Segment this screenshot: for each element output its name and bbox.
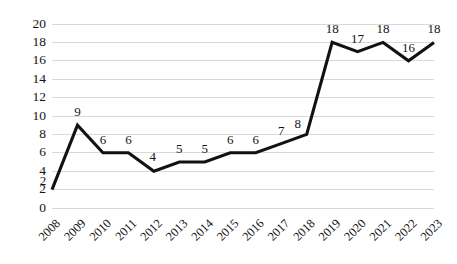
data-point-label: 9 <box>74 104 81 119</box>
data-point-label: 6 <box>125 132 132 147</box>
x-axis-tick-label: 2013 <box>163 216 190 243</box>
x-axis-tick-label: 2014 <box>188 216 215 243</box>
data-point-label: 5 <box>176 141 183 156</box>
x-axis-tick-label: 2023 <box>418 216 445 243</box>
data-point-label: 4 <box>150 149 157 164</box>
data-point-label: 6 <box>252 132 259 147</box>
x-axis-tick-label: 2015 <box>214 216 241 243</box>
y-axis-tick-label: 0 <box>39 200 46 215</box>
x-axis-tick-label: 2011 <box>112 216 139 243</box>
data-point-label: 18 <box>326 21 339 36</box>
y-axis-tick-label: 16 <box>33 52 47 67</box>
data-point-labels: 296645566781817181618 <box>40 21 441 187</box>
x-axis-tick-label: 2012 <box>138 216 165 243</box>
data-point-label: 6 <box>227 132 234 147</box>
line-chart: 02468101214161820 2008200920102011201220… <box>0 0 457 264</box>
chart-canvas: 02468101214161820 2008200920102011201220… <box>0 0 457 264</box>
data-point-label: 8 <box>294 116 301 131</box>
y-axis-tick-label: 8 <box>39 126 46 141</box>
data-point-label: 2 <box>40 173 47 188</box>
x-axis-tick-label: 2018 <box>290 216 317 243</box>
data-point-label: 17 <box>351 31 365 46</box>
data-point-label: 6 <box>100 132 107 147</box>
y-axis-tick-label: 6 <box>39 144 46 159</box>
y-axis-tick-label: 12 <box>33 89 47 104</box>
data-point-label: 7 <box>278 123 285 138</box>
data-point-label: 18 <box>377 21 390 36</box>
x-axis-tick-label: 2019 <box>316 216 343 243</box>
x-axis-tick-label: 2022 <box>392 216 419 243</box>
y-axis-tick-label: 20 <box>33 16 47 31</box>
data-point-label: 5 <box>202 141 209 156</box>
y-axis-tick-label: 14 <box>33 71 47 86</box>
x-axis-tick-label: 2009 <box>61 216 88 243</box>
gridlines <box>52 24 434 208</box>
x-axis-tick-label: 2008 <box>36 216 63 243</box>
x-axis-tick-label: 2020 <box>341 216 368 243</box>
x-axis-tick-labels: 2008200920102011201220132014201520162017… <box>36 216 445 243</box>
x-axis-tick-label: 2017 <box>265 216 292 243</box>
x-axis-tick-label: 2010 <box>87 216 114 243</box>
x-axis-tick-label: 2016 <box>239 216 266 243</box>
y-axis-tick-label: 18 <box>33 34 47 49</box>
x-axis-tick-label: 2021 <box>367 216 394 243</box>
y-axis-tick-label: 10 <box>33 108 47 123</box>
data-point-label: 16 <box>402 40 416 55</box>
data-point-label: 18 <box>428 21 441 36</box>
